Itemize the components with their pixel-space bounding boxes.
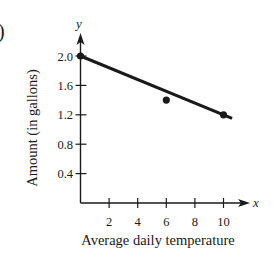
chart: )xy2468100.40.81.21.62.0Average daily te… [0, 0, 274, 253]
x-tick-label: 6 [163, 215, 169, 229]
x-tick-label: 10 [217, 215, 230, 229]
x-tick-label: 2 [106, 215, 112, 229]
plot-area: )xy2468100.40.81.21.62.0Average daily te… [0, 16, 259, 248]
y-tick-label: 1.6 [57, 79, 73, 93]
y-tick-label: 2.0 [57, 50, 73, 64]
x-axis-title: Average daily temperature [81, 232, 235, 248]
y-axis-title: Amount (in gallons) [24, 69, 41, 187]
x-axis-variable: x [252, 195, 259, 210]
trend-line [81, 56, 233, 118]
y-tick-label: 0.8 [57, 138, 73, 152]
part-label: ) [0, 20, 5, 43]
x-tick-label: 4 [135, 215, 142, 229]
data-point [163, 97, 170, 104]
y-tick-label: 1.2 [57, 108, 73, 122]
y-axis-variable: y [74, 16, 82, 31]
y-tick-label: 0.4 [57, 167, 73, 181]
data-point [77, 52, 84, 59]
data-point [220, 111, 227, 118]
x-tick-label: 8 [192, 215, 198, 229]
